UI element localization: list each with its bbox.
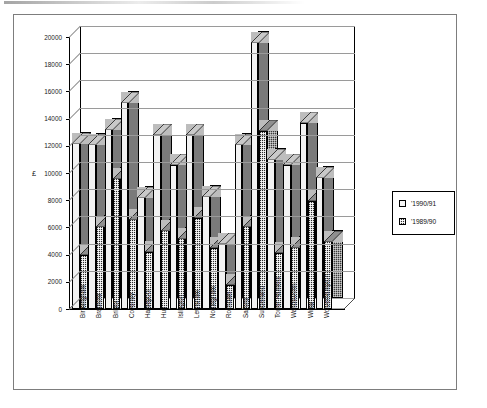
bar-front-face (88, 144, 96, 309)
bar-front-face (243, 226, 251, 309)
light-swatch-icon (399, 200, 406, 207)
y-tick-label: 4000 (48, 251, 62, 258)
bar-top-cap (153, 124, 172, 135)
bar-front-face (251, 42, 259, 309)
category-label: Sunderland (258, 286, 265, 318)
chart-legend: '1990/91 '1989/90 (392, 191, 455, 235)
bar-chart: 0200040006000800010000120001400016000180… (14, 15, 458, 391)
bar-1990-91[interactable] (88, 144, 96, 309)
bar-1990-91[interactable] (105, 129, 113, 309)
gridline (80, 162, 355, 163)
figure-frame: 0200040006000800010000120001400016000180… (13, 14, 457, 390)
category-label: Hull (160, 307, 167, 318)
y-tick-mark (66, 309, 69, 310)
bar-front-face (161, 230, 169, 309)
legend-label: '1990/91 (411, 200, 436, 207)
y-tick-label: 18000 (44, 61, 62, 68)
dark-checkered-swatch-icon (399, 218, 406, 225)
category-label: Birmingham (79, 284, 86, 318)
category-label: Wandsworth (290, 283, 297, 318)
gridline (80, 189, 355, 190)
bar-top-cap (186, 124, 205, 135)
y-tick-mark (66, 173, 69, 174)
y-tick-label: 14000 (44, 115, 62, 122)
y-tick-mark (66, 255, 69, 256)
y-axis-title: £ (32, 169, 36, 178)
category-label: Wolverhampton (323, 274, 330, 318)
category-label: Tower Hamlets (274, 276, 281, 318)
y-tick-label: 10000 (44, 170, 62, 177)
gridline (80, 80, 355, 81)
bar-top-cap (316, 167, 335, 178)
y-tick-label: 8000 (48, 197, 62, 204)
bar-front-face (235, 144, 243, 309)
bar-front-face (259, 131, 267, 309)
y-tick-mark (66, 146, 69, 147)
bar-front-face (170, 165, 178, 309)
axis-depth-connector (69, 26, 81, 38)
axis-depth-connector (69, 53, 81, 65)
bar-1990-91[interactable] (121, 102, 129, 309)
category-label: Nottingham (209, 286, 216, 318)
gridline (80, 53, 355, 54)
category-label: Hartlepool (144, 289, 151, 318)
gridline (80, 108, 355, 109)
bar-front-face (121, 102, 129, 309)
category-label: Rochdale (225, 291, 232, 318)
category-label: Wirral (307, 302, 314, 318)
bar-front-face (105, 129, 113, 309)
bar-top-cap (300, 112, 319, 123)
category-label: Lewisham (193, 290, 200, 318)
bar-top-cap (202, 186, 221, 197)
legend-item-1989-90[interactable]: '1989/90 (399, 218, 436, 225)
bar-1990-91[interactable] (235, 144, 243, 309)
y-tick-mark (66, 200, 69, 201)
legend-item-1990-91[interactable]: '1990/91 (399, 200, 436, 207)
y-tick-mark (66, 37, 69, 38)
legend-label: '1989/90 (411, 218, 436, 225)
gridline (80, 216, 355, 217)
category-label: Islington (177, 295, 184, 318)
y-tick-mark (66, 227, 69, 228)
gridline (80, 135, 355, 136)
category-label: Bradford (95, 294, 102, 318)
bar-1989-90[interactable] (243, 226, 251, 309)
y-tick-label: 12000 (44, 142, 62, 149)
y-tick-mark (66, 119, 69, 120)
bar-1989-90[interactable] (161, 230, 169, 309)
y-tick-label: 16000 (44, 88, 62, 95)
y-tick-label: 0 (58, 306, 62, 313)
bar-1989-90[interactable] (259, 131, 267, 309)
y-tick-mark (66, 64, 69, 65)
bar-top-cap (259, 120, 278, 131)
bar-top-cap (251, 32, 270, 43)
y-tick-label: 20000 (44, 34, 62, 41)
y-tick-label: 2000 (48, 278, 62, 285)
axis-depth-connector (69, 107, 81, 119)
bar-top-cap (324, 231, 343, 242)
axis-depth-connector (69, 80, 81, 92)
y-tick-mark (66, 91, 69, 92)
gridline (80, 244, 355, 245)
y-tick-label: 6000 (48, 224, 62, 231)
gridline (80, 271, 355, 272)
category-label: Bristol (112, 301, 119, 319)
category-label: Coventry (128, 293, 135, 318)
category-label: Salford (242, 298, 249, 318)
plot-area: 0200040006000800010000120001400016000180… (69, 37, 344, 309)
bar-1990-91[interactable] (251, 42, 259, 309)
gridline (80, 26, 355, 27)
y-tick-mark (66, 282, 69, 283)
scan-artifact (4, 1, 304, 4)
bar-top-cap (121, 92, 140, 103)
bar-1990-91[interactable] (170, 165, 178, 309)
